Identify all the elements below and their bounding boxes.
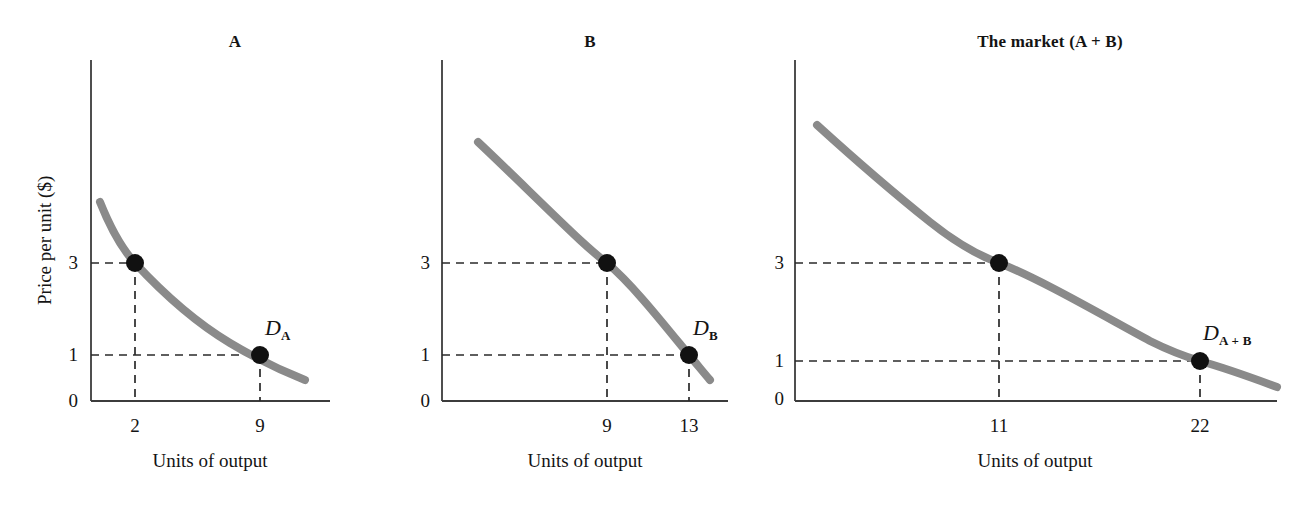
panel-b-point-9-3	[598, 254, 616, 272]
panel-market-point-11-3	[990, 254, 1008, 272]
panel-a-curve-label: DA	[265, 315, 291, 344]
panel-a-y-axis-title: Price per unit ($)	[34, 176, 56, 305]
panel-b-ytick-0: 0	[400, 390, 430, 412]
panel-a-ytick-0: 0	[48, 390, 78, 412]
panel-market-xtick-11: 11	[979, 415, 1019, 437]
panel-market-ytick-3: 3	[754, 252, 784, 274]
panel-market-curve-label-sub: A + B	[1219, 333, 1252, 348]
panel-b-ytick-1: 1	[400, 344, 430, 366]
demand-curves-figure: A Price per unit ($) 3 1 0 2 9	[0, 0, 1294, 507]
panel-a-x-axis-title: Units of output	[120, 450, 300, 472]
panel-a-demand-curve	[100, 202, 305, 380]
panel-b: B 3 1 0 9 13 DB Units o	[400, 0, 740, 507]
panel-market-x-axis-title: Units of output	[945, 450, 1125, 472]
panel-a-point-2-3	[126, 254, 144, 272]
panel-a-xtick-2: 2	[115, 415, 155, 437]
panel-b-curve-label: DB	[693, 315, 718, 344]
panel-market-xtick-22: 22	[1180, 415, 1220, 437]
panel-market-ytick-0: 0	[754, 388, 784, 410]
panel-b-ytick-3: 3	[400, 252, 430, 274]
panel-market-curve-label: DA + B	[1203, 320, 1252, 349]
panel-a-ytick-1: 1	[48, 344, 78, 366]
panel-a-point-9-1	[251, 346, 269, 364]
panel-b-xtick-13: 13	[669, 415, 709, 437]
panel-b-point-13-1	[680, 346, 698, 364]
panel-a-curve-label-sub: A	[281, 328, 291, 343]
panel-a-ytick-3: 3	[48, 252, 78, 274]
panel-market-ytick-1: 1	[754, 350, 784, 372]
panel-market: The market (A + B) 3 1 0 11 22 DA + B	[740, 0, 1294, 507]
panel-b-curve-label-d: D	[693, 315, 709, 340]
panel-market-curve-label-d: D	[1203, 320, 1219, 345]
panel-a-curve-label-d: D	[265, 315, 281, 340]
panel-b-xtick-9: 9	[587, 415, 627, 437]
panel-b-x-axis-title: Units of output	[495, 450, 675, 472]
panel-a-xtick-9: 9	[240, 415, 280, 437]
panel-b-demand-curve	[478, 142, 710, 380]
panel-b-curve-label-sub: B	[709, 328, 718, 343]
panel-market-point-22-1	[1191, 352, 1209, 370]
panel-a: A Price per unit ($) 3 1 0 2 9	[0, 0, 400, 507]
